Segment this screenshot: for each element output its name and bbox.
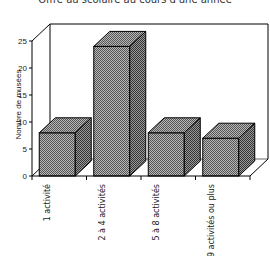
bar [39,118,91,176]
bar-chart: 05101520251 activité2 à 4 activités5 à 8… [0,0,270,256]
x-category-label: 9 activités ou plus [206,184,216,256]
x-category-label: 5 à 8 activités [151,184,161,241]
bar [203,123,255,176]
bars [39,31,255,176]
bar [94,31,146,176]
y-tick-label: 10 [18,118,27,127]
y-tick-label: 25 [18,37,27,46]
y-tick-label: 20 [18,64,27,73]
x-category-label: 2 à 4 activités [97,184,107,241]
x-category-label: 1 activité [42,184,52,221]
y-tick-label: 15 [18,91,27,100]
y-tick-label: 5 [23,145,28,154]
bar [148,118,200,176]
y-tick-label: 0 [23,172,28,181]
